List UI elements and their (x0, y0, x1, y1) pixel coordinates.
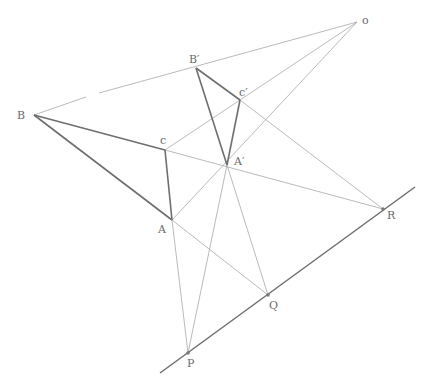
ray-o-b-segment-1 (34, 97, 86, 115)
side-b2c2 (196, 68, 240, 100)
line-c2-r (240, 100, 383, 209)
label-q: Q (269, 299, 278, 312)
line-a-p (172, 220, 188, 353)
point-labels: o B c A B′ c′ A′ P Q R (17, 14, 396, 370)
side-bc (34, 115, 165, 150)
line-a-q (172, 220, 268, 295)
point-p (186, 351, 190, 355)
label-p: P (187, 357, 195, 370)
line-a2-q (227, 165, 268, 295)
triangle-a2b2c2 (196, 68, 240, 165)
ray-o-a (172, 22, 357, 220)
label-a-prime: A′ (233, 155, 245, 168)
label-b-prime: B′ (189, 53, 200, 66)
label-b: B (17, 109, 25, 122)
label-c-prime: c′ (239, 86, 248, 99)
label-c: c (160, 134, 166, 147)
desargues-axis-pqr (160, 187, 415, 373)
point-r (381, 207, 385, 211)
side-ba (34, 115, 172, 220)
desargues-diagram: o B c A B′ c′ A′ P Q R (0, 0, 427, 389)
line-a2-p (188, 165, 227, 353)
triangle-abc (34, 115, 172, 220)
line-c-r (165, 150, 383, 209)
ray-o-c (165, 22, 357, 150)
point-q (266, 293, 270, 297)
label-o: o (362, 14, 369, 27)
side-b2a2 (196, 68, 227, 165)
construction-lines (34, 22, 383, 353)
label-a: A (157, 223, 167, 236)
ray-o-b-segment-2 (99, 22, 357, 93)
label-r: R (387, 209, 396, 222)
side-ca (165, 150, 172, 220)
